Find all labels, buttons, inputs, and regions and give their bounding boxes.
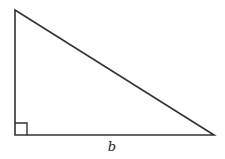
base-label: b — [108, 139, 116, 154]
triangle — [15, 10, 214, 135]
right-angle-marker — [15, 123, 27, 135]
right-triangle-diagram: b — [0, 0, 225, 159]
